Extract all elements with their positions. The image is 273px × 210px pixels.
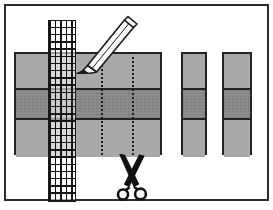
main-sheet-band-bottom [16, 120, 160, 157]
scissors-icon [110, 154, 154, 206]
strip-a-band-top [183, 54, 205, 88]
strip-b-band-middle [224, 88, 250, 120]
strip-a-band-bottom [183, 120, 205, 157]
illustration-frame [4, 4, 269, 201]
strip-a-band-middle [183, 88, 205, 120]
main-sheet-band-middle [16, 88, 160, 120]
illustration-canvas [0, 0, 273, 210]
strip-a [181, 52, 207, 155]
strip-b-band-top [224, 54, 250, 88]
strip-b-band-bottom [224, 120, 250, 157]
strip-b [222, 52, 252, 155]
pencil-icon [66, 12, 140, 78]
